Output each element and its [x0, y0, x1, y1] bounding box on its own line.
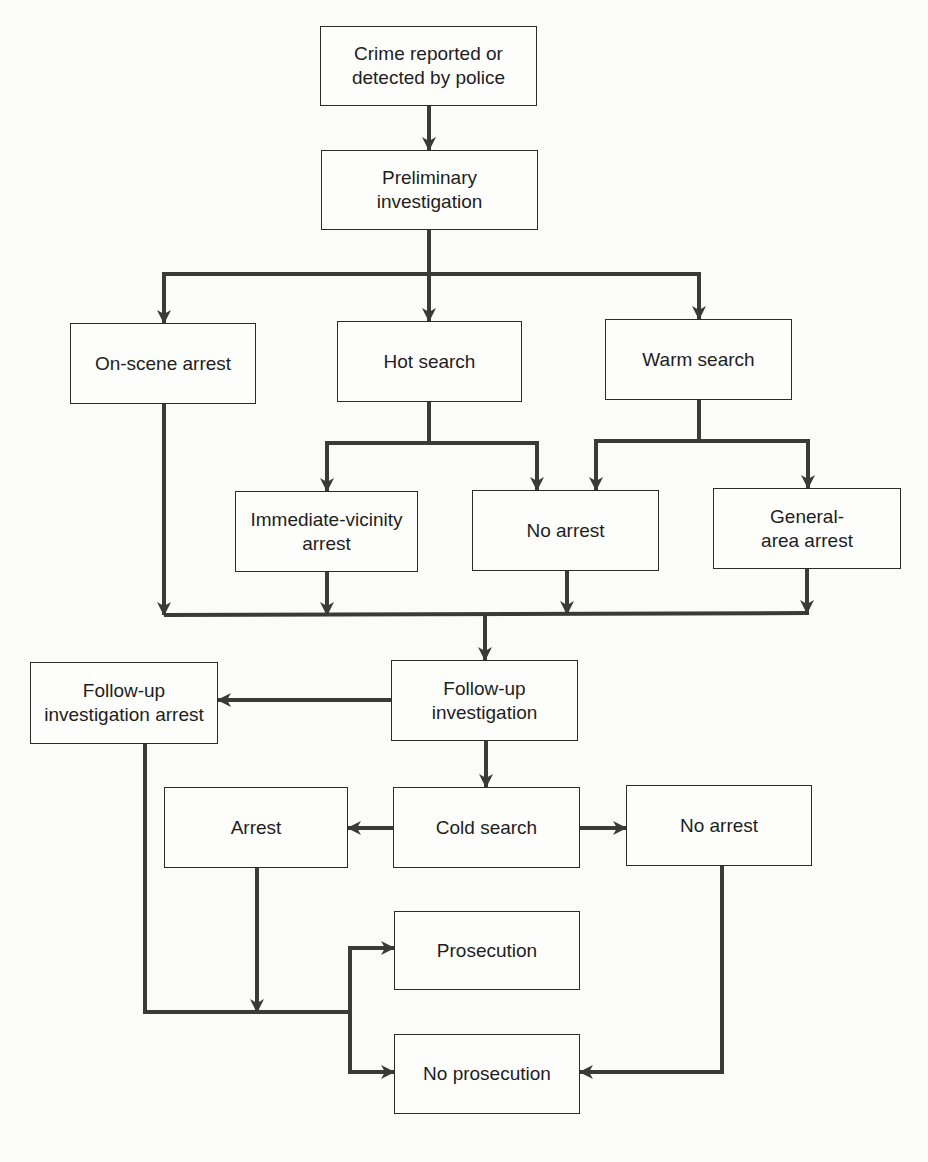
node-immediate-vicinity-arrest: Immediate-vicinity arrest [235, 491, 418, 572]
node-label: Warm search [642, 348, 754, 372]
node-label: Crime reported or detected by police [352, 42, 505, 90]
node-label: Cold search [436, 816, 537, 840]
node-label: No arrest [526, 519, 604, 543]
node-label: Follow-up investigation arrest [44, 679, 203, 727]
node-label: General- area arrest [761, 505, 853, 553]
node-label: Arrest [231, 816, 282, 840]
node-arrest: Arrest [164, 787, 348, 868]
node-label: Hot search [384, 350, 476, 374]
node-warm-search: Warm search [605, 319, 792, 400]
node-no-prosecution: No prosecution [394, 1034, 580, 1114]
node-no-arrest-search: No arrest [472, 490, 659, 571]
node-label: On-scene arrest [95, 352, 231, 376]
node-hot-search: Hot search [337, 321, 522, 402]
node-label: No prosecution [423, 1062, 551, 1086]
node-followup-investigation-arrest: Follow-up investigation arrest [30, 662, 218, 744]
node-crime-reported: Crime reported or detected by police [320, 26, 537, 106]
crime-investigation-flowchart: Crime reported or detected by police Pre… [0, 0, 928, 1162]
node-label: Prosecution [437, 939, 537, 963]
node-label: Immediate-vicinity arrest [250, 508, 402, 556]
node-followup-investigation: Follow-up investigation [391, 660, 578, 741]
node-label: Follow-up investigation [432, 677, 538, 725]
node-on-scene-arrest: On-scene arrest [70, 323, 256, 404]
node-label: No arrest [680, 814, 758, 838]
node-general-area-arrest: General- area arrest [713, 488, 901, 569]
node-prosecution: Prosecution [394, 911, 580, 990]
node-preliminary-investigation: Preliminary investigation [321, 150, 538, 230]
node-cold-search: Cold search [393, 787, 580, 868]
node-no-arrest-cold: No arrest [626, 785, 812, 866]
node-label: Preliminary investigation [377, 166, 483, 214]
